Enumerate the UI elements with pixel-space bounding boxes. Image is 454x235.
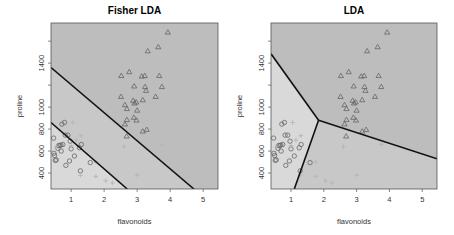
x-tick-label: 3: [355, 195, 359, 204]
y-tick-label: 1000: [37, 99, 46, 116]
y-axis-label: proline: [235, 95, 244, 118]
y-tick-label: 600: [257, 145, 266, 158]
y-tick-label: 800: [37, 123, 46, 136]
x-tick-label: 5: [201, 195, 205, 204]
y-tick-label: 1400: [37, 55, 46, 72]
panel-lda: 1234540060080010001400LDAflavonoidsproli…: [235, 5, 437, 226]
x-tick-label: 1: [69, 195, 73, 204]
plot-area: [271, 23, 437, 189]
y-tick-label: 800: [257, 123, 266, 136]
x-tick-label: 2: [322, 195, 326, 204]
x-tick-label: 2: [102, 195, 106, 204]
x-axis-label: flavonoids: [118, 217, 152, 226]
y-tick-label: 400: [257, 167, 266, 180]
chart-canvas: 1234540060080010001400Fisher LDAflavonoi…: [0, 0, 454, 235]
x-tick-label: 5: [420, 195, 424, 204]
y-tick-label: 400: [37, 167, 46, 180]
x-tick-label: 4: [387, 195, 391, 204]
plot-area: [51, 23, 218, 189]
y-tick-label: 1400: [257, 55, 266, 72]
chart-title: LDA: [344, 5, 365, 16]
y-tick-label: 1000: [257, 99, 266, 116]
chart-figure: 1234540060080010001400Fisher LDAflavonoi…: [0, 0, 454, 235]
x-axis-label: flavonoids: [337, 217, 371, 226]
x-tick-label: 1: [289, 195, 293, 204]
y-axis-label: proline: [15, 95, 24, 118]
chart-title: Fisher LDA: [108, 5, 161, 16]
y-tick-label: 600: [37, 145, 46, 158]
x-tick-label: 4: [168, 195, 172, 204]
x-tick-label: 3: [135, 195, 139, 204]
panel-fisher-lda: 1234540060080010001400Fisher LDAflavonoi…: [15, 5, 218, 226]
